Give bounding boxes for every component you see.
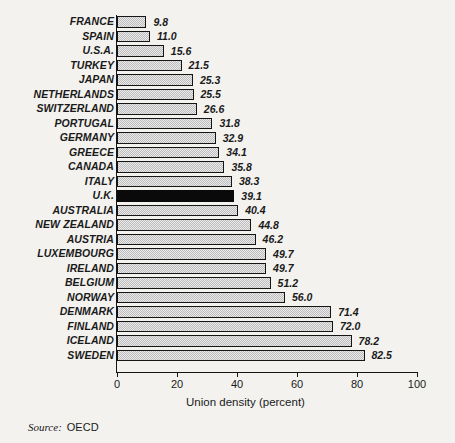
x-tick-label: 20 (171, 378, 183, 390)
bar (117, 219, 251, 230)
bar-row: AUSTRALIA40.4 (0, 204, 455, 219)
category-label: U.S.A. (82, 44, 114, 59)
bar (117, 350, 365, 361)
bar (117, 161, 224, 172)
bar-value-label: 35.8 (231, 161, 251, 174)
category-label: NEW ZEALAND (35, 218, 114, 233)
bar-value-label: 44.8 (258, 219, 278, 232)
bar-row: ITALY38.3 (0, 175, 455, 190)
x-tick-label: 60 (291, 378, 303, 390)
category-label: NETHERLANDS (34, 88, 114, 103)
bar-row: IRELAND49.7 (0, 262, 455, 277)
bar-value-label: 31.8 (219, 117, 239, 130)
bar (117, 74, 193, 85)
x-axis-title-text: Union density (percent) (186, 396, 305, 408)
bar-value-label: 49.7 (273, 248, 293, 261)
bar (117, 176, 232, 187)
x-tick-label: 100 (408, 378, 426, 390)
bar (117, 248, 266, 259)
category-label: GREECE (69, 146, 114, 161)
bar-value-label: 72.0 (340, 320, 360, 333)
x-tick-label: 80 (351, 378, 363, 390)
category-label: NORWAY (67, 291, 114, 306)
category-label: TURKEY (70, 59, 114, 74)
bar-row: PORTUGAL31.8 (0, 117, 455, 132)
bar-row: AUSTRIA46.2 (0, 233, 455, 248)
bar-value-label: 15.6 (171, 45, 191, 58)
category-label: FRANCE (70, 15, 114, 30)
x-tick (177, 373, 178, 377)
bar-value-label: 9.8 (153, 16, 168, 29)
bar-value-label: 38.3 (239, 175, 259, 188)
bar (117, 263, 266, 274)
bar (117, 234, 256, 245)
bar-value-label: 56.0 (292, 291, 312, 304)
source-value: OECD (67, 421, 99, 433)
bar (117, 277, 271, 288)
bar-value-label: 40.4 (245, 204, 265, 217)
bar-value-label: 32.9 (223, 132, 243, 145)
bar-row: NORWAY56.0 (0, 291, 455, 306)
bar-value-label: 78.2 (359, 335, 379, 348)
bar-row: SPAIN11.0 (0, 30, 455, 45)
bar-chart: FRANCE9.8SPAIN11.0U.S.A.15.6TURKEY21.5JA… (0, 0, 455, 443)
bar-row: DENMARK71.4 (0, 305, 455, 320)
bar (117, 118, 212, 129)
category-label: ITALY (85, 175, 114, 190)
category-label: AUSTRALIA (52, 204, 114, 219)
category-label: AUSTRIA (67, 233, 114, 248)
bar-highlighted (117, 190, 234, 201)
x-tick (237, 373, 238, 377)
bar (117, 335, 352, 346)
bar-row: U.S.A.15.6 (0, 44, 455, 59)
bar-row: GERMANY32.9 (0, 131, 455, 146)
bar-value-label: 11.0 (157, 30, 177, 43)
bar (117, 292, 285, 303)
bar-row: TURKEY21.5 (0, 59, 455, 74)
bar-row: SWEDEN82.5 (0, 349, 455, 364)
category-label: BELGIUM (65, 276, 114, 291)
bar-value-label: 34.1 (226, 146, 246, 159)
bar (117, 306, 331, 317)
category-label: CANADA (68, 160, 114, 175)
category-label: ICELAND (67, 334, 114, 349)
bar-row: GREECE34.1 (0, 146, 455, 161)
source-label: Source: (28, 421, 62, 433)
bar-row: FINLAND72.0 (0, 320, 455, 335)
category-label: GERMANY (60, 131, 114, 146)
bar-row: JAPAN25.3 (0, 73, 455, 88)
category-label: SWITZERLAND (36, 102, 114, 117)
bar-value-label: 49.7 (273, 262, 293, 275)
x-tick (117, 373, 118, 377)
source-note: Source:OECD (28, 421, 99, 433)
chart-page: FRANCE9.8SPAIN11.0U.S.A.15.6TURKEY21.5JA… (0, 0, 455, 443)
bar-value-label: 51.2 (278, 277, 298, 290)
bar (117, 132, 216, 143)
bar-row: BELGIUM51.2 (0, 276, 455, 291)
bar-value-label: 21.5 (189, 59, 209, 72)
bar-value-label: 26.6 (204, 103, 224, 116)
bar (117, 89, 194, 100)
bar-row: CANADA35.8 (0, 160, 455, 175)
bar-row: NEW ZEALAND44.8 (0, 218, 455, 233)
bar-row: LUXEMBOURG49.7 (0, 247, 455, 262)
bar-value-label: 25.5 (201, 88, 221, 101)
x-tick (417, 373, 418, 377)
bar-rows: FRANCE9.8SPAIN11.0U.S.A.15.6TURKEY21.5JA… (0, 15, 455, 363)
bar-value-label: 82.5 (372, 349, 392, 362)
bar (117, 147, 219, 158)
category-label: LUXEMBOURG (37, 247, 114, 262)
bar-value-label: 39.1 (241, 190, 261, 203)
bar-value-label: 25.3 (200, 74, 220, 87)
category-label: SWEDEN (67, 349, 114, 364)
bar (117, 60, 182, 71)
bar-row: U.K.39.1 (0, 189, 455, 204)
bar-row: NETHERLANDS25.5 (0, 88, 455, 103)
bar (117, 321, 333, 332)
x-tick-label: 0 (114, 378, 120, 390)
category-label: PORTUGAL (54, 117, 114, 132)
bar-row: FRANCE9.8 (0, 15, 455, 30)
bar-value-label: 46.2 (263, 233, 283, 246)
category-label: SPAIN (82, 30, 114, 45)
x-axis-title: Union density (percent) (0, 396, 455, 408)
